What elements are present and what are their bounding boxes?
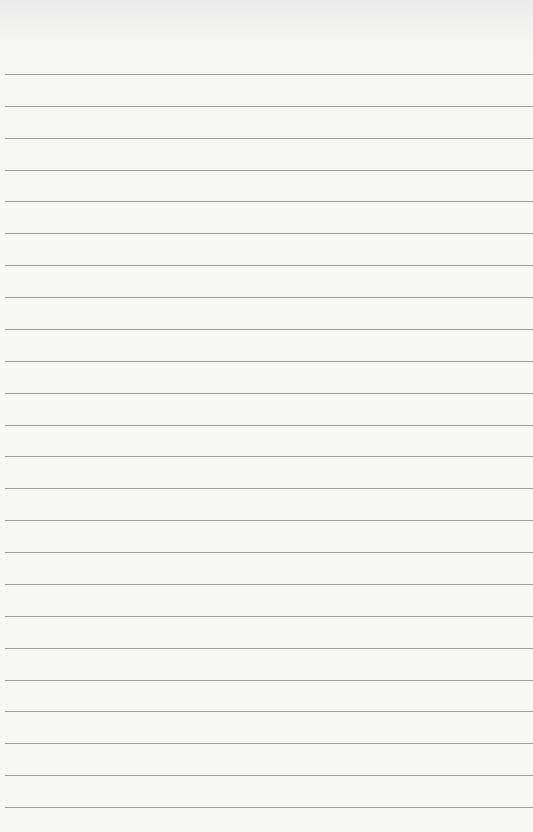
ruled-line (5, 775, 533, 776)
ruled-line (5, 393, 533, 394)
ruled-line (5, 170, 533, 171)
ruled-line (5, 456, 533, 457)
lined-paper-sheet (0, 0, 533, 832)
ruled-line (5, 648, 533, 649)
ruled-line (5, 584, 533, 585)
ruled-line (5, 138, 533, 139)
ruled-line (5, 201, 533, 202)
ruled-line (5, 297, 533, 298)
ruled-line (5, 233, 533, 234)
ruled-line (5, 329, 533, 330)
ruled-line (5, 265, 533, 266)
ruled-line (5, 807, 533, 808)
ruled-line (5, 488, 533, 489)
ruled-line (5, 616, 533, 617)
ruled-line (5, 552, 533, 553)
ruled-line (5, 361, 533, 362)
ruled-line (5, 425, 533, 426)
ruled-line (5, 74, 533, 75)
ruled-line (5, 743, 533, 744)
ruled-line (5, 711, 533, 712)
ruled-line (5, 106, 533, 107)
ruled-line (5, 520, 533, 521)
ruled-line (5, 680, 533, 681)
